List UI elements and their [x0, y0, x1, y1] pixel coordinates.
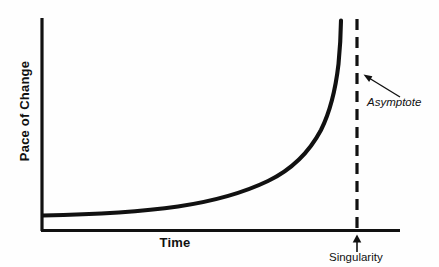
asymptote-annotation-label: Asymptote [367, 96, 421, 108]
pace-of-change-curve [43, 21, 341, 216]
singularity-chart: Pace of Change Time Asymptote Singularit… [0, 0, 439, 267]
y-axis-label: Pace of Change [17, 41, 32, 181]
chart-canvas [0, 0, 439, 267]
asymptote-arrow-icon [364, 75, 401, 98]
x-axis-label: Time [133, 235, 217, 250]
singularity-annotation-label: Singularity [329, 251, 383, 263]
singularity-arrow-icon [353, 235, 362, 253]
